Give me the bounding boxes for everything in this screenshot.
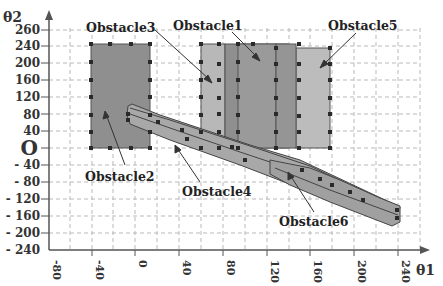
y-tick: 80 xyxy=(23,108,40,122)
y-tick-origin: O xyxy=(21,136,38,160)
x-tick: -40 xyxy=(93,260,106,280)
x-tick: -80 xyxy=(50,260,63,280)
y-tick: - 160 xyxy=(6,209,40,223)
obstacle1-label: Obstacle1 xyxy=(173,18,243,33)
obstacle2-label: Obstacle2 xyxy=(85,169,155,184)
x-tick: 0 xyxy=(136,260,149,268)
obstacle4-label: Obstacle4 xyxy=(182,184,252,199)
y-axis-labels: 260 240 200 160 120 80 40 O - 40 - 80 - … xyxy=(6,23,40,257)
y-tick: - 120 xyxy=(6,192,40,206)
y-tick: 260 xyxy=(15,23,40,37)
y-tick: 240 xyxy=(15,39,40,53)
y-axis-title: θ2 xyxy=(3,9,22,25)
x-tick: 160 xyxy=(311,260,324,283)
obstacle2-region xyxy=(91,44,150,148)
x-tick: 240 xyxy=(399,260,412,283)
obstacle3-label: Obstacle3 xyxy=(86,20,156,35)
configuration-space-diagram: 260 240 200 160 120 80 40 O - 40 - 80 - … xyxy=(0,0,443,286)
x-axis-title: θ1 xyxy=(416,262,435,278)
obstacle6-label: Obstacle6 xyxy=(279,214,349,229)
y-tick: 120 xyxy=(15,90,40,104)
y-tick: - 40 xyxy=(14,158,40,172)
x-axis-labels: -80 -40 0 40 80 120 160 200 240 xyxy=(50,260,412,283)
y-tick: - 200 xyxy=(6,226,40,240)
y-tick: 200 xyxy=(15,56,40,70)
obstacle5-region xyxy=(276,44,330,148)
obstacle5-label: Obstacle5 xyxy=(328,18,398,33)
x-tick: 120 xyxy=(268,260,281,283)
y-tick: - 80 xyxy=(14,175,40,189)
x-tick: 80 xyxy=(224,260,237,276)
y-tick: 160 xyxy=(15,73,40,87)
x-tick: 40 xyxy=(180,260,193,276)
y-tick: - 240 xyxy=(6,243,40,257)
x-tick: 200 xyxy=(355,260,368,283)
